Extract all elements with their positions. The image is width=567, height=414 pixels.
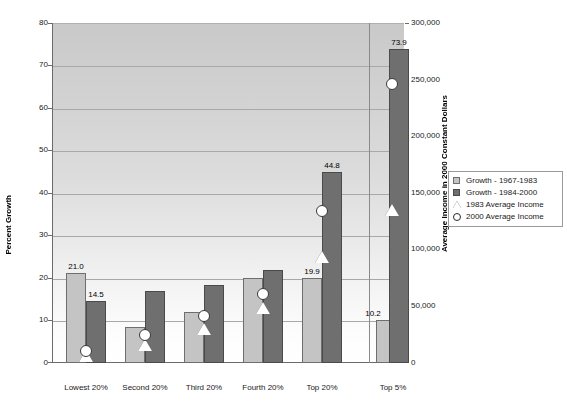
y-tickmark-50 [48, 150, 52, 151]
y-tick-40: 40 [14, 189, 48, 197]
x-category-second20: Second 20% [115, 383, 175, 392]
gridline-70 [53, 66, 404, 67]
y-tickmark-80 [48, 23, 52, 24]
y-axis-title: Percent Growth [4, 195, 13, 255]
bar-label-top5-light: 10.2 [357, 310, 389, 318]
gridline-50 [53, 151, 404, 152]
y-tickmark-20 [48, 278, 52, 279]
marker-2000-income-top5[interactable] [386, 78, 398, 90]
marker-2000-income-top20[interactable] [316, 205, 328, 217]
y-axis-line [52, 23, 53, 363]
bar-growth-1967-1983-top20[interactable] [302, 278, 322, 363]
chart-figure: 80 70 60 50 40 30 20 10 0 300,000 250,00… [0, 0, 567, 414]
x-category-lowest20: Lowest 20% [56, 383, 116, 392]
bar-label-top5-dark: 73.9 [383, 39, 415, 47]
legend-label-2000-average-income: 2000 Average Income [466, 212, 544, 221]
y2-tickmark-300000 [405, 23, 409, 24]
legend-item-2000-average-income[interactable]: 2000 Average Income [452, 211, 559, 222]
y-tick-10: 10 [14, 316, 48, 324]
y-tickmark-0 [48, 362, 52, 363]
marker-2000-income-lowest20[interactable] [80, 345, 92, 357]
y-tick-0: 0 [14, 359, 48, 367]
legend-item-1983-average-income[interactable]: 1983 Average Income [452, 199, 559, 210]
circle-marker-icon [452, 211, 463, 222]
square-dark-icon [452, 187, 463, 198]
bar-growth-1984-2000-fourth20[interactable] [263, 270, 283, 363]
bar-label-lowest20-dark: 14.5 [80, 291, 112, 299]
x-category-third20: Third 20% [174, 383, 234, 392]
marker-1983-income-third20[interactable] [197, 323, 211, 335]
legend-item-growth-1967-1983[interactable]: Growth - 1967-1983 [452, 175, 559, 186]
y2-tick-200000: 200,000 [411, 132, 440, 140]
y2-tick-0: 0 [411, 359, 415, 367]
x-category-fourth20: Fourth 20% [233, 383, 293, 392]
gridline-40 [53, 194, 404, 195]
y-tickmark-10 [48, 320, 52, 321]
marker-2000-income-fourth20[interactable] [257, 288, 269, 300]
legend-label-growth-1967-1983: Growth - 1967-1983 [466, 176, 537, 185]
bar-growth-1984-2000-second20[interactable] [145, 291, 165, 363]
y-tick-30: 30 [14, 231, 48, 239]
y-tickmark-60 [48, 108, 52, 109]
chart-legend: Growth - 1967-1983 Growth - 1984-2000 19… [448, 171, 563, 227]
y-tickmark-70 [48, 65, 52, 66]
y2-tick-100000: 100,000 [411, 245, 440, 253]
marker-1983-income-top5[interactable] [385, 204, 399, 216]
x-category-top5: Top 5% [363, 383, 423, 392]
y-tick-50: 50 [14, 146, 48, 154]
triangle-marker-icon [452, 199, 463, 210]
marker-1983-income-top20[interactable] [315, 251, 329, 263]
x-category-top20: Top 20% [292, 383, 352, 392]
bar-label-top20-light: 19.9 [296, 268, 328, 276]
bar-label-top20-dark: 44.8 [316, 162, 348, 170]
y-tick-80: 80 [14, 19, 48, 27]
y2-tick-300000: 300,000 [411, 19, 440, 27]
square-light-icon [452, 175, 463, 186]
marker-2000-income-third20[interactable] [198, 310, 210, 322]
gridline-30 [53, 236, 404, 237]
y-tick-70: 70 [14, 61, 48, 69]
bar-label-lowest20-light: 21.0 [60, 263, 92, 271]
legend-label-1983-average-income: 1983 Average Income [466, 200, 544, 209]
marker-1983-income-fourth20[interactable] [256, 302, 270, 314]
legend-item-growth-1984-2000[interactable]: Growth - 1984-2000 [452, 187, 559, 198]
y-tick-60: 60 [14, 104, 48, 112]
legend-label-growth-1984-2000: Growth - 1984-2000 [466, 188, 537, 197]
chart-title [0, 0, 567, 5]
y2-tick-150000: 150,000 [411, 189, 440, 197]
y-tick-20: 20 [14, 274, 48, 282]
y-tickmark-40 [48, 193, 52, 194]
y2-tick-250000: 250,000 [411, 76, 440, 84]
y-tickmark-30 [48, 235, 52, 236]
marker-2000-income-second20[interactable] [139, 329, 151, 341]
y2-tick-50000: 50,000 [411, 302, 435, 310]
gridline-20 [53, 279, 404, 280]
gridline-60 [53, 109, 404, 110]
